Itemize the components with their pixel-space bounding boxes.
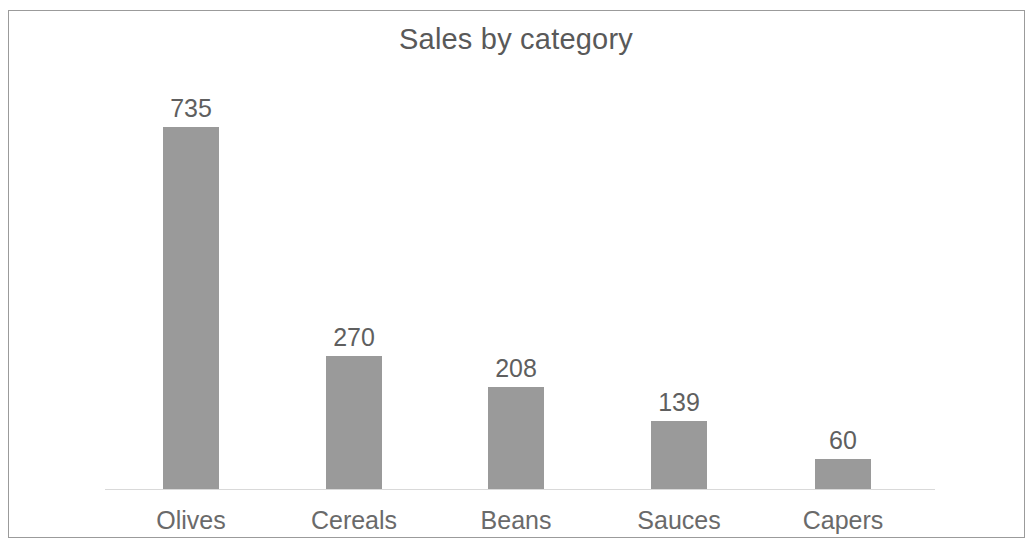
category-label-capers: Capers [775, 505, 911, 535]
category-label-beans: Beans [448, 505, 584, 535]
category-slot-cereals: Cereals [326, 0, 382, 545]
category-label-olives: Olives [123, 505, 259, 535]
category-slot-sauces: Sauces [651, 0, 707, 545]
plot-area: 735 Olives 270 Cereals 208 Beans 139 Sau… [0, 0, 1032, 545]
category-slot-olives: Olives [163, 0, 219, 545]
category-label-cereals: Cereals [286, 505, 422, 535]
category-label-sauces: Sauces [611, 505, 747, 535]
category-slot-beans: Beans [488, 0, 544, 545]
category-slot-capers: Capers [815, 0, 871, 545]
chart-canvas: Sales by category 735 Olives 270 Cereals… [0, 0, 1032, 545]
